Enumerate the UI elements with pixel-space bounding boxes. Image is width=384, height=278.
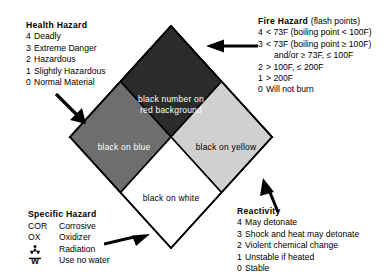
reactivity-level-row: 3Shock and heat may detonate [237, 229, 359, 240]
fire-level-value: 1 [258, 73, 266, 84]
svg-text:W: W [31, 256, 40, 266]
fire-level-value: 4 [258, 27, 266, 38]
reactivity-level-text: Shock and heat may detonate [245, 229, 359, 239]
health-hazard-heading: Health Hazard [26, 20, 106, 31]
fire-level-text: > 100F, ≤ 200F [266, 62, 324, 72]
no-water-w-icon: W [28, 255, 59, 266]
health-pointer-arrow [50, 88, 94, 132]
fire-level-value: 3 [258, 39, 266, 50]
fire-level-row: 0Will not burn [258, 84, 372, 95]
specific-hazard-row: COR Corrosive [28, 220, 110, 232]
reactivity-level-value: 1 [237, 252, 245, 263]
fire-hazard-heading-text: Fire Hazard [258, 16, 308, 26]
fire-pointer-arrow [206, 38, 258, 54]
health-quadrant-label: black on blue [78, 142, 170, 153]
fire-level-row: 1> 200F [258, 73, 372, 84]
specific-hazard-pointer-arrow [104, 232, 150, 250]
specific-hazard-row: OX Oxidizer [28, 232, 110, 244]
fire-level-text: < 73F (boiling point < 100F) [266, 27, 372, 37]
specific-hazard-legend: Specific Hazard COR Corrosive OX Oxidize… [28, 209, 110, 267]
specific-hazard-desc: Corrosive [59, 221, 96, 232]
fire-level-value: 2 [258, 62, 266, 73]
health-level-text: Extreme Danger [34, 43, 97, 53]
specific-hazard-desc: Radiation [59, 244, 95, 255]
health-level-row: 3Extreme Danger [26, 43, 106, 54]
reactivity-pointer-arrow [258, 178, 292, 214]
nfpa-hazard-diamond-figure: black number on red background black on … [0, 0, 384, 278]
health-hazard-legend: Health Hazard 4Deadly 3Extreme Danger 2H… [26, 20, 106, 88]
fire-quadrant-label-line1: black number on [108, 94, 234, 105]
reactivity-level-value: 2 [237, 240, 245, 251]
reactivity-level-value: 0 [237, 263, 245, 274]
fire-level-text: > 200F [266, 73, 293, 83]
reactivity-level-value: 4 [237, 217, 245, 228]
fire-level-text: < 73F (boiling point ≥ 100F) [266, 39, 371, 49]
health-level-value: 0 [26, 77, 34, 88]
fire-hazard-heading: Fire Hazard (flash points) [258, 16, 372, 27]
health-level-value: 4 [26, 31, 34, 42]
specific-hazard-row: W Use no water [28, 255, 110, 267]
health-level-text: Slightly Hazardous [34, 66, 106, 76]
reactivity-legend: Reactivity 4May detonate 3Shock and heat… [237, 206, 359, 274]
reactivity-level-row: 2Violent chemical change [237, 240, 359, 251]
fire-level-row: 4< 73F (boiling point < 100F) [258, 27, 372, 38]
health-level-text: Hazardous [34, 54, 76, 64]
fire-level-text: and/or ≥ 73F, ≤ 100F [274, 50, 353, 60]
reactivity-level-row: 4May detonate [237, 217, 359, 228]
health-level-row: 2Hazardous [26, 54, 106, 65]
specific-quadrant-label: black on white [118, 193, 224, 204]
health-level-row: 4Deadly [26, 31, 106, 42]
health-level-value: 3 [26, 43, 34, 54]
health-level-value: 2 [26, 54, 34, 65]
fire-hazard-legend: Fire Hazard (flash points) 4< 73F (boili… [258, 16, 372, 96]
health-level-row: 0Normal Material [26, 77, 106, 88]
reactivity-heading: Reactivity [237, 206, 359, 217]
reactivity-level-row: 1Unstable if heated [237, 252, 359, 263]
specific-hazard-row: Radiation [28, 244, 110, 256]
fire-quadrant-label: black number on red background [108, 94, 234, 115]
reactivity-quadrant-label: black on yellow [180, 142, 272, 153]
radiation-trefoil-icon [28, 244, 59, 255]
fire-level-row: 3< 73F (boiling point ≥ 100F) [258, 39, 372, 50]
fire-level-row-continued: and/or ≥ 73F, ≤ 100F [258, 50, 372, 61]
health-level-text: Deadly [34, 31, 61, 41]
specific-hazard-heading: Specific Hazard [28, 209, 110, 220]
health-level-text: Normal Material [34, 77, 95, 87]
reactivity-level-text: Stable [245, 263, 269, 273]
reactivity-level-text: May detonate [245, 217, 297, 227]
reactivity-level-value: 3 [237, 229, 245, 240]
specific-hazard-code: OX [28, 232, 59, 243]
fire-level-text: Will not burn [266, 84, 314, 94]
specific-hazard-code: COR [28, 221, 59, 232]
specific-hazard-desc: Oxidizer [59, 232, 91, 243]
fire-hazard-heading-note: (flash points) [311, 16, 360, 26]
specific-hazard-desc: Use no water [59, 255, 110, 266]
fire-level-value: 0 [258, 84, 266, 95]
health-level-row: 1Slightly Hazardous [26, 66, 106, 77]
fire-level-row: 2> 100F, ≤ 200F [258, 62, 372, 73]
reactivity-level-text: Violent chemical change [245, 240, 338, 250]
health-level-value: 1 [26, 66, 34, 77]
reactivity-level-text: Unstable if heated [245, 252, 314, 262]
fire-quadrant-label-line2: red background [108, 105, 234, 116]
reactivity-level-row: 0Stable [237, 263, 359, 274]
